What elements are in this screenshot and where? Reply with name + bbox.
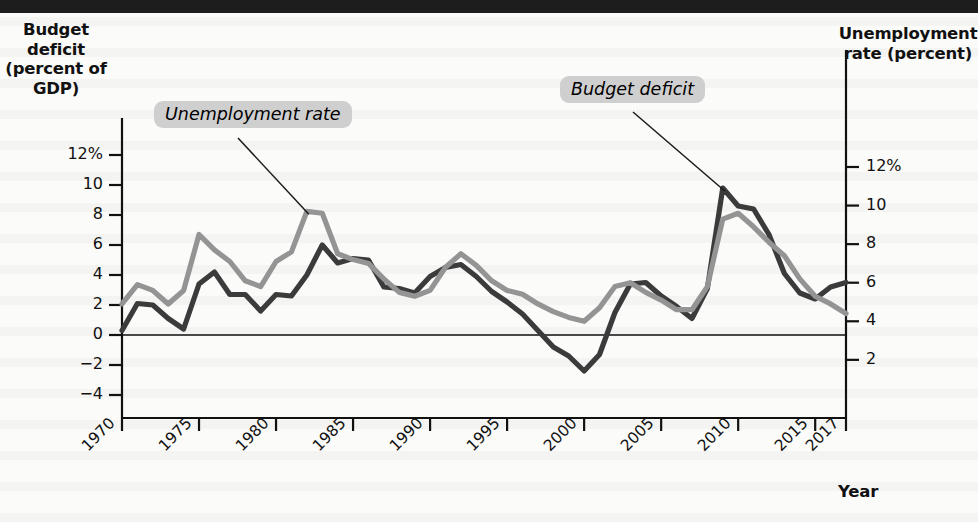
right-axis-tick-label: 4 xyxy=(866,310,876,329)
callout-leader-deficit xyxy=(633,112,725,191)
left-axis-tick-label: 0 xyxy=(93,324,103,343)
left-axis-tick-label: 6 xyxy=(93,234,103,253)
right-axis-tick-label: 8 xyxy=(866,233,876,252)
left-axis-tick-label: 8 xyxy=(93,204,103,223)
chart-plot-area xyxy=(0,0,978,522)
left-axis-tick-label: 10 xyxy=(83,174,103,193)
right-axis-tick-label: 6 xyxy=(866,272,876,291)
right-axis-tick-label: 12% xyxy=(866,156,902,175)
callout-leader-unemployment xyxy=(238,138,309,214)
page-header-bar xyxy=(0,0,978,13)
left-axis-tick-label: 4 xyxy=(93,264,103,283)
right-axis-tick-label: 2 xyxy=(866,349,876,368)
figure-container: Budget deficit (percent of GDP) Unemploy… xyxy=(0,0,978,522)
left-axis-tick-label: −2 xyxy=(79,354,103,373)
series-line-unemployment-rate xyxy=(122,211,846,321)
left-axis-tick-label: 12% xyxy=(67,144,103,163)
left-axis-tick-label: −4 xyxy=(79,384,103,403)
left-axis-tick-label: 2 xyxy=(93,294,103,313)
right-axis-tick-label: 10 xyxy=(866,195,886,214)
